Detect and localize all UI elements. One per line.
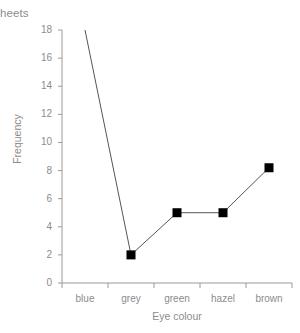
series-line xyxy=(85,30,269,255)
series-marker xyxy=(173,208,182,217)
series-marker xyxy=(127,250,136,259)
y-axis-ticks xyxy=(58,30,62,283)
x-axis-ticks xyxy=(62,283,292,288)
series-marker xyxy=(265,163,274,172)
data-markers xyxy=(127,163,274,259)
plot-area xyxy=(0,0,300,333)
data-line xyxy=(85,30,269,255)
series-marker xyxy=(219,208,228,217)
chart-figure: heets Frequency Eye colour 0246810121416… xyxy=(0,0,300,333)
axes xyxy=(62,30,292,283)
